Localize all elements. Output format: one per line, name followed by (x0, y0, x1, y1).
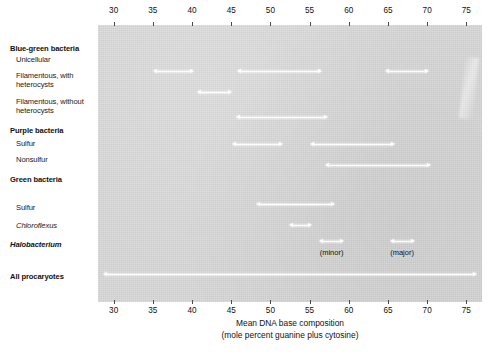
x-tick-65 (388, 22, 389, 26)
range-arrow (237, 70, 322, 73)
x-tick-label-60: 60 (344, 306, 353, 315)
range-arrow (256, 203, 335, 206)
arrowhead-left-icon (310, 142, 314, 146)
x-tick-label-45: 45 (227, 306, 236, 315)
x-tick-label-50: 50 (266, 6, 275, 15)
x-tick-65 (388, 300, 389, 304)
x-tick-label-35: 35 (148, 6, 157, 15)
row-label-blue-green-bacteria: Blue-green bacteria (10, 44, 102, 53)
arrowhead-right-icon (473, 272, 477, 276)
row-label-green-sulfur: Sulfur (16, 203, 108, 212)
range-arrow (103, 273, 478, 276)
row-label-filamentous-without-heterocysts-line2: heterocysts (16, 106, 108, 115)
x-tick-35 (153, 300, 154, 304)
arrow-bar (200, 92, 229, 93)
range-arrow (232, 143, 283, 146)
x-tick-label-30: 30 (109, 306, 118, 315)
annotation-minor: (minor) (320, 248, 344, 257)
range-arrow (385, 70, 429, 73)
x-tick-40 (192, 300, 193, 304)
arrowhead-right-icon (318, 69, 322, 73)
x-tick-60 (349, 22, 350, 26)
arrowhead-right-icon (340, 239, 344, 243)
x-tick-70 (427, 300, 428, 304)
row-label-halobacterium: Halobacterium (10, 240, 102, 249)
x-tick-45 (231, 300, 232, 304)
arrowhead-left-icon (390, 239, 394, 243)
annotation-major: (major) (390, 248, 414, 257)
arrowhead-left-icon (236, 115, 240, 119)
arrowhead-right-icon (411, 239, 415, 243)
range-arrow (236, 116, 328, 119)
x-tick-label-35: 35 (148, 306, 157, 315)
range-arrow (153, 70, 194, 73)
panel-texture (98, 25, 482, 302)
x-tick-label-45: 45 (227, 6, 236, 15)
arrow-bar (393, 241, 412, 242)
row-label-purple-nonsulfur: Nonsulfur (16, 155, 108, 164)
x-axis-title-line1: Mean DNA base composition (98, 318, 482, 330)
arrowhead-right-icon (425, 69, 429, 73)
x-axis-title-line2: (mole percent guanine plus cytosine) (98, 330, 482, 342)
range-arrow (319, 240, 344, 243)
row-label-filamentous-with-heterocysts-line2: heterocysts (16, 80, 108, 89)
x-tick-60 (349, 300, 350, 304)
x-tick-50 (270, 22, 271, 26)
arrowhead-left-icon (153, 69, 157, 73)
row-label-purple-bacteria: Purple bacteria (10, 126, 102, 135)
arrow-bar (240, 71, 319, 72)
arrowhead-right-icon (331, 202, 335, 206)
row-label-column: Blue-green bacteria Unicellular Filament… (0, 0, 98, 354)
figure-root: Blue-green bacteria Unicellular Filament… (0, 0, 492, 354)
x-tick-label-75: 75 (462, 6, 471, 15)
range-arrow (390, 240, 415, 243)
row-label-all-procaryotes: All procaryotes (10, 272, 102, 281)
arrow-bar (239, 117, 325, 118)
x-tick-label-65: 65 (383, 306, 392, 315)
x-tick-35 (153, 22, 154, 26)
x-tick-label-70: 70 (423, 6, 432, 15)
x-tick-label-60: 60 (344, 6, 353, 15)
arrow-bar (388, 71, 426, 72)
row-label-chloroflexus: Chloroflexus (16, 221, 108, 230)
arrowhead-right-icon (427, 163, 431, 167)
arrowhead-left-icon (385, 69, 389, 73)
arrowhead-left-icon (237, 69, 241, 73)
x-tick-label-40: 40 (187, 306, 196, 315)
range-arrow (197, 91, 232, 94)
x-tick-30 (114, 22, 115, 26)
arrowhead-left-icon (319, 239, 323, 243)
arrowhead-left-icon (256, 202, 260, 206)
x-tick-75 (466, 300, 467, 304)
x-tick-75 (466, 22, 467, 26)
panel-smudge (459, 56, 479, 119)
arrow-bar (259, 204, 332, 205)
arrowhead-left-icon (197, 90, 201, 94)
arrowhead-left-icon (232, 142, 236, 146)
x-tick-label-65: 65 (383, 6, 392, 15)
x-tick-label-75: 75 (462, 306, 471, 315)
range-arrow (310, 143, 395, 146)
arrow-bar (106, 274, 475, 275)
x-tick-55 (310, 300, 311, 304)
row-label-filamentous-with-heterocysts: Filamentous, with (16, 71, 108, 80)
arrowhead-right-icon (190, 69, 194, 73)
row-label-purple-sulfur: Sulfur (16, 139, 108, 148)
x-tick-label-55: 55 (305, 6, 314, 15)
arrow-bar (292, 225, 309, 226)
arrowhead-left-icon (325, 163, 329, 167)
x-tick-50 (270, 300, 271, 304)
x-tick-30 (114, 300, 115, 304)
x-axis-title: Mean DNA base composition (mole percent … (98, 318, 482, 341)
arrowhead-right-icon (308, 223, 312, 227)
arrowhead-right-icon (279, 142, 283, 146)
x-tick-label-50: 50 (266, 306, 275, 315)
arrowhead-left-icon (103, 272, 107, 276)
row-label-green-bacteria: Green bacteria (10, 175, 102, 184)
arrow-bar (313, 144, 392, 145)
arrow-bar (235, 144, 280, 145)
range-arrow (289, 224, 312, 227)
arrowhead-left-icon (289, 223, 293, 227)
x-tick-45 (231, 22, 232, 26)
arrow-bar (328, 165, 428, 166)
